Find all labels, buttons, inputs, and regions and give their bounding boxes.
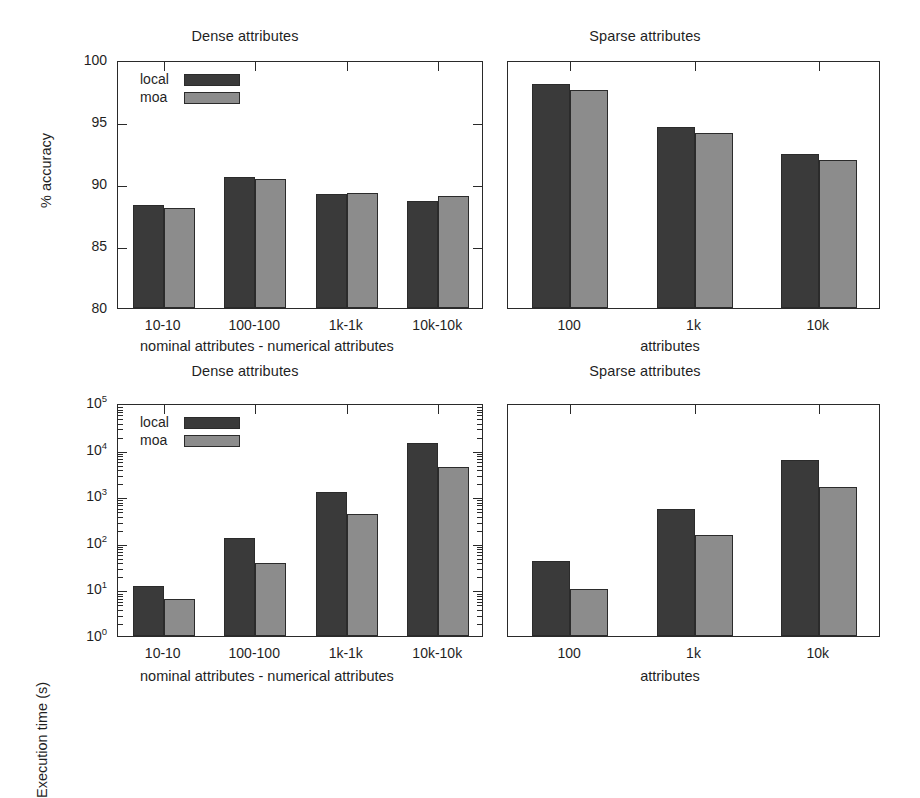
y-tick-minor-right — [477, 517, 482, 518]
legend-swatch-local — [184, 417, 240, 429]
y-tick-minor — [118, 547, 123, 548]
legend-row-moa: moa — [140, 433, 240, 448]
bar-moa-100-100 — [255, 563, 286, 636]
y-tick-minor-right — [477, 624, 482, 625]
bar-local-10k-10k — [407, 201, 438, 308]
plot-area-top-right — [507, 61, 880, 309]
bar-moa-100 — [570, 90, 608, 308]
y-tick-minor-right — [477, 523, 482, 524]
y-tick-right-95 — [473, 124, 482, 125]
x-tick-label-1k: 1k — [634, 645, 754, 661]
y-tick-minor-right — [477, 577, 482, 578]
bar-local-100-100 — [224, 538, 255, 636]
y-tick-minor-right — [477, 462, 482, 463]
bar-moa-100-100 — [255, 179, 286, 308]
y-tick-minor-right — [477, 503, 482, 504]
y-tick-minor — [118, 419, 123, 420]
x-tick-label-1k: 1k — [634, 317, 754, 333]
panel-top-right: Sparse attributes attributes 1001k10k — [490, 28, 920, 373]
y-tick-label-100: 102 — [43, 535, 107, 551]
y-tick-minor — [118, 407, 123, 408]
x-tick-100 — [570, 62, 571, 71]
y-tick-minor-right — [477, 602, 482, 603]
bar-local-10k-10k — [407, 443, 438, 636]
y-tick-minor-right — [477, 563, 482, 564]
y-tick-minor — [118, 599, 123, 600]
x-tick-label-10k: 10k — [758, 317, 878, 333]
y-tick-right-10 — [473, 591, 482, 592]
y-tick-minor — [118, 549, 123, 550]
bar-moa-10-10 — [164, 599, 195, 636]
bar-local-1k — [657, 509, 695, 636]
y-tick-minor — [118, 523, 123, 524]
y-tick-label-100000: 105 — [43, 395, 107, 411]
y-tick-minor — [118, 610, 123, 611]
y-tick-minor — [118, 462, 123, 463]
bar-moa-10k-10k — [438, 467, 469, 636]
x-tick-1k — [695, 62, 696, 71]
y-tick-minor-right — [477, 466, 482, 467]
bar-moa-10k — [819, 160, 857, 308]
y-tick-minor-right — [477, 610, 482, 611]
bar-local-10-10 — [133, 586, 164, 636]
y-tick-minor-right — [477, 509, 482, 510]
panel-title-top-right: Sparse attributes — [430, 28, 860, 44]
y-tick-minor — [118, 412, 123, 413]
y-tick-minor-right — [477, 412, 482, 413]
y-tick-label-10: 101 — [43, 581, 107, 597]
y-tick-100 — [118, 545, 127, 546]
x-tick-1k — [695, 405, 696, 414]
y-tick-minor — [118, 424, 123, 425]
x-tick-label-10k: 10k — [758, 645, 878, 661]
y-tick-right-100 — [473, 545, 482, 546]
y-tick-minor-right — [477, 476, 482, 477]
x-tick-label-100: 100 — [509, 317, 629, 333]
y-tick-minor — [118, 509, 123, 510]
x-tick-10-10 — [164, 62, 165, 71]
bar-moa-1k-1k — [347, 193, 378, 308]
y-tick-minor — [118, 602, 123, 603]
legend-swatch-moa — [184, 435, 240, 447]
y-tick-10000 — [118, 452, 127, 453]
y-tick-85 — [118, 248, 127, 249]
bar-local-1k — [657, 127, 695, 308]
y-tick-minor-right — [477, 505, 482, 506]
x-tick-1k-1k — [347, 405, 348, 414]
y-tick-minor — [118, 552, 123, 553]
y-tick-minor-right — [477, 569, 482, 570]
y-tick-minor — [118, 616, 123, 617]
y-tick-minor — [118, 577, 123, 578]
y-tick-minor — [118, 596, 123, 597]
x-tick-10k — [819, 62, 820, 71]
y-tick-minor-right — [477, 429, 482, 430]
legend-row-local: local — [140, 415, 240, 430]
bar-local-10-10 — [133, 205, 164, 308]
y-axis-title-top-left: % accuracy — [38, 133, 54, 208]
y-tick-minor — [118, 624, 123, 625]
y-tick-minor-right — [477, 547, 482, 548]
y-tick-minor-right — [477, 424, 482, 425]
y-tick-minor — [118, 438, 123, 439]
legend-label-local: local — [140, 72, 182, 87]
y-tick-minor-right — [477, 500, 482, 501]
bar-local-1k-1k — [316, 492, 347, 636]
y-tick-minor — [118, 531, 123, 532]
y-tick-minor — [118, 429, 123, 430]
bar-moa-10k-10k — [438, 196, 469, 308]
y-tick-minor-right — [477, 419, 482, 420]
y-tick-minor-right — [477, 456, 482, 457]
x-tick-10k — [819, 405, 820, 414]
legend-bottom_left: localmoa — [140, 415, 240, 451]
y-tick-minor-right — [477, 512, 482, 513]
y-tick-minor-right — [477, 438, 482, 439]
panel-title-bottom-left: Dense attributes — [0, 363, 490, 379]
bar-local-10k — [781, 460, 819, 636]
bar-moa-100 — [570, 589, 608, 636]
y-tick-label-95: 95 — [43, 114, 107, 130]
y-tick-minor-right — [477, 410, 482, 411]
y-tick-minor — [118, 505, 123, 506]
y-tick-minor-right — [477, 596, 482, 597]
y-tick-minor-right — [477, 484, 482, 485]
x-tick-100-100 — [255, 405, 256, 414]
